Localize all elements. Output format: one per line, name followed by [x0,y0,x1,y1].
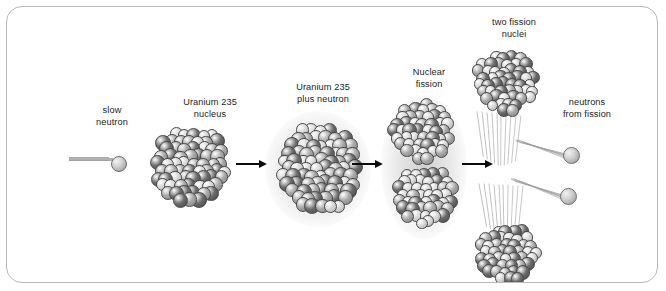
nucleon [324,200,337,213]
label-slow-neutron: slow neutron [81,105,143,128]
fission-lobe-upper [391,101,455,163]
nucleon [435,144,448,157]
uranium-plus-neutron-cluster [277,121,359,217]
motion-line [491,113,495,164]
fission-lobe-lower [393,165,457,227]
motion-line [69,160,109,161]
label-uranium-235-nucleus: Uranium 235 nucleus [155,97,265,120]
motion-line [496,113,498,165]
label-two-fission-nuclei: two fission nuclei [459,17,569,40]
label-neutrons-from-fission: neutrons from fission [534,97,640,120]
arrow-3 [462,163,486,165]
label-nuclear-fission: Nuclear fission [381,67,477,90]
label-uranium-235-plus-neutron: Uranium 235 plus neutron [265,82,381,105]
motion-line [518,180,563,200]
arrow-1 [236,163,260,165]
fission-neutron-2 [560,188,577,205]
upper-fission-nucleus-cluster [473,49,537,115]
diagram-frame: slow neutron Uranium 235 nucleus Uranium… [6,6,658,283]
slow-neutron-sphere [111,156,127,172]
nucleon [420,152,434,166]
motion-line [522,141,565,158]
motion-line [504,114,507,165]
nucleon [173,193,188,208]
stage-slow-neutron [7,7,147,67]
fission-neutron-1 [563,147,580,164]
nucleon [506,104,519,117]
motion-line [515,115,522,161]
arrow-2 [352,163,376,165]
lower-fission-nucleus-cluster [475,223,539,283]
uranium-235-nucleus-cluster [151,125,229,207]
motion-line [501,114,502,166]
nucleon [511,272,525,283]
